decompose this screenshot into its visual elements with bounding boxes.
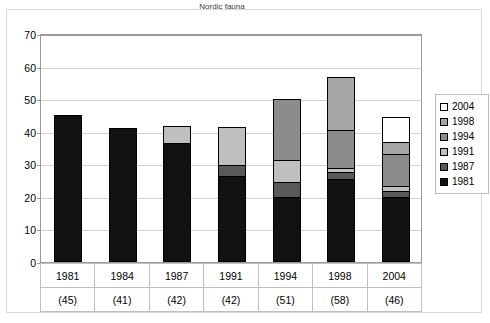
- y-axis-tick-20: 20: [0, 198, 36, 199]
- y-axis-tickmark-40: [37, 133, 41, 134]
- legend-swatch-1998-icon: [440, 118, 448, 126]
- bar-segment-1984-1981[interactable]: [109, 128, 137, 262]
- y-axis-tickmark-70: [37, 35, 41, 36]
- x-axis-year-1981: 1981: [41, 264, 95, 288]
- bar-segment-1994-1987[interactable]: [273, 182, 301, 198]
- chart-frame: Nordic fauna 010203040506070 19811984198…: [6, 9, 482, 313]
- x-axis-count-1991: (42): [204, 288, 258, 312]
- y-axis-tick-40: 40: [0, 133, 36, 134]
- legend-swatch-1994-icon: [440, 133, 448, 141]
- y-axis-tick-0: 0: [0, 263, 36, 264]
- bar-1991[interactable]: [218, 127, 246, 262]
- bar-1981[interactable]: [54, 115, 82, 262]
- y-axis-tick-60: 60: [0, 68, 36, 69]
- gridline-70: [41, 35, 421, 36]
- y-axis-tick-70: 70: [0, 35, 36, 36]
- x-axis-count-1981: (45): [41, 288, 95, 312]
- bar-segment-1998-1994[interactable]: [327, 130, 355, 169]
- bar-segment-1987-1991[interactable]: [163, 126, 191, 144]
- x-axis-count-2004: (46): [367, 288, 421, 312]
- x-axis-count-1984: (41): [95, 288, 149, 312]
- bar-segment-1998-1998[interactable]: [327, 77, 355, 131]
- legend-item-1987[interactable]: 1987: [440, 159, 485, 174]
- legend-label-1991: 1991: [452, 147, 474, 157]
- bar-segment-2004-1981[interactable]: [382, 197, 410, 262]
- x-axis-count-1987: (42): [149, 288, 203, 312]
- gridline-50: [41, 100, 421, 101]
- bar-1994[interactable]: [273, 99, 301, 262]
- bar-segment-2004-2004[interactable]: [382, 117, 410, 143]
- bar-segment-1991-1981[interactable]: [218, 176, 246, 262]
- legend-item-1998[interactable]: 1998: [440, 114, 485, 129]
- legend-item-1991[interactable]: 1991: [440, 144, 485, 159]
- legend-swatch-1981-icon: [440, 178, 448, 186]
- x-axis-year-1987: 1987: [149, 264, 203, 288]
- plot-area: 010203040506070: [40, 34, 422, 263]
- y-axis-tick-10: 10: [0, 230, 36, 231]
- legend-item-1994[interactable]: 1994: [440, 129, 485, 144]
- legend-label-1987: 1987: [452, 162, 474, 172]
- x-axis-label-table: 1981198419871991199419982004 (45)(41)(42…: [40, 263, 422, 312]
- y-axis-tickmark-30: [37, 165, 41, 166]
- y-axis-tickmark-10: [37, 230, 41, 231]
- bar-1984[interactable]: [109, 128, 137, 262]
- bar-segment-1998-1981[interactable]: [327, 179, 355, 262]
- legend-swatch-1991-icon: [440, 148, 448, 156]
- legend-swatch-1987-icon: [440, 163, 448, 171]
- x-axis-year-1994: 1994: [258, 264, 312, 288]
- bar-2004[interactable]: [382, 117, 410, 262]
- x-axis-year-1998: 1998: [313, 264, 367, 288]
- x-axis-count-1994: (51): [258, 288, 312, 312]
- y-axis-tick-30: 30: [0, 165, 36, 166]
- legend-label-1981: 1981: [452, 177, 474, 187]
- legend-label-1998: 1998: [452, 117, 474, 127]
- bar-1998[interactable]: [327, 77, 355, 262]
- y-axis-tickmark-50: [37, 100, 41, 101]
- bar-segment-1994-1991[interactable]: [273, 160, 301, 183]
- chart-title: Nordic fauna: [7, 2, 437, 11]
- bar-segment-1994-1981[interactable]: [273, 197, 301, 262]
- x-axis-count-row: (45)(41)(42)(42)(51)(58)(46): [41, 288, 422, 312]
- y-axis-tick-50: 50: [0, 100, 36, 101]
- bar-segment-1991-1991[interactable]: [218, 127, 246, 166]
- chart-legend: 200419981994199119871981: [435, 94, 489, 194]
- x-axis-year-2004: 2004: [367, 264, 421, 288]
- y-axis-tickmark-20: [37, 198, 41, 199]
- legend-label-1994: 1994: [452, 132, 474, 142]
- x-axis-year-1991: 1991: [204, 264, 258, 288]
- legend-item-2004[interactable]: 2004: [440, 99, 485, 114]
- legend-item-1981[interactable]: 1981: [440, 174, 485, 189]
- y-axis-tickmark-60: [37, 68, 41, 69]
- gridline-60: [41, 68, 421, 69]
- x-axis-year-row: 1981198419871991199419982004: [41, 264, 422, 288]
- bar-1987[interactable]: [163, 126, 191, 262]
- legend-label-2004: 2004: [452, 102, 474, 112]
- legend-swatch-2004-icon: [440, 103, 448, 111]
- bar-segment-1981-1981[interactable]: [54, 115, 82, 262]
- bar-segment-2004-1994[interactable]: [382, 154, 410, 187]
- x-axis-year-1984: 1984: [95, 264, 149, 288]
- bar-segment-1987-1981[interactable]: [163, 143, 191, 262]
- x-axis-count-1998: (58): [313, 288, 367, 312]
- bar-segment-1994-1994[interactable]: [273, 99, 301, 161]
